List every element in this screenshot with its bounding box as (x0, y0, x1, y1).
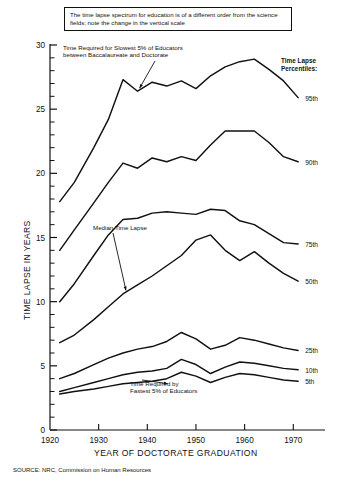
series-label-95th: 95th (305, 95, 318, 102)
y-tick-label: 30 (36, 41, 46, 50)
callout-note: The time lapse spectrum for education is… (64, 7, 292, 31)
annotation-fastest: Time Required byFastest 5% of Educators (130, 381, 197, 395)
callout-text: The time lapse spectrum for education is… (70, 11, 278, 26)
x-axis-title-text: YEAR OF DOCTORATE GRADUATION (94, 448, 258, 458)
source-text: SOURCE: NRC, Commission on Human Resourc… (13, 467, 151, 473)
y-tick-label: 5 (40, 362, 45, 371)
series-label-5th: 5th (305, 378, 314, 385)
series-line-25th (60, 332, 298, 378)
source-note: SOURCE: NRC, Commission on Human Resourc… (13, 467, 151, 474)
x-tick-label: 1940 (138, 436, 157, 445)
series-line-50th (60, 235, 298, 343)
annotation-fastest-line2: Fastest 5% of Educators (130, 387, 197, 394)
leader-median (113, 233, 126, 290)
leader-slowest (140, 61, 155, 88)
x-tick-label: 1930 (90, 436, 109, 445)
legend-heading: Time LapsePercentiles: (281, 57, 317, 74)
x-axis-title: YEAR OF DOCTORATE GRADUATION (94, 449, 258, 459)
y-tick-label: 10 (36, 298, 46, 307)
series-line-95th (60, 59, 298, 201)
y-tick-label: 25 (36, 105, 46, 114)
y-axis-title: TIME LAPSE IN YEARS (22, 220, 32, 320)
x-tick-label: 1950 (187, 436, 206, 445)
y-tick-label: 20 (36, 169, 46, 178)
legend-heading-line2: Percentiles: (281, 65, 317, 72)
legend-heading-line1: Time Lapse (281, 57, 316, 64)
x-tick-label: 1960 (236, 436, 255, 445)
series-label-75th: 75th (305, 241, 318, 248)
series-label-10th: 10th (305, 367, 318, 374)
series-line-90th (60, 131, 298, 250)
annotation-slowest-line1: Time Required for Slowest 5% of Educator… (63, 44, 183, 51)
series-label-90th: 90th (305, 159, 318, 166)
y-tick-label: 15 (36, 234, 46, 243)
annotation-slowest-line2: between Baccalaureate and Doctorate (63, 51, 168, 58)
y-axis-title-text: TIME LAPSE IN YEARS (22, 220, 32, 320)
annotation-median: Median Time Lapse (93, 225, 147, 232)
annotation-fastest-line1: Time Required by (130, 380, 179, 387)
y-tick-label: 0 (40, 426, 45, 435)
chart-figure: 05101520253019201930194019501960197095th… (0, 0, 341, 488)
annotation-median-text: Median Time Lapse (93, 224, 147, 231)
annotation-slowest: Time Required for Slowest 5% of Educator… (63, 45, 183, 59)
series-label-25th: 25th (305, 347, 318, 354)
x-tick-label: 1920 (41, 436, 60, 445)
x-tick-label: 1970 (284, 436, 303, 445)
series-label-50th: 50th (305, 278, 318, 285)
